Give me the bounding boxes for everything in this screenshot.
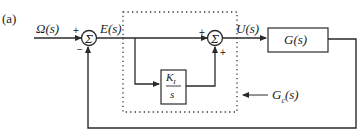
sum1-minus-sign: − bbox=[77, 45, 83, 55]
sum1-plus-sign: + bbox=[73, 26, 79, 36]
error-signal-label: E(s) bbox=[100, 22, 122, 35]
controller-label-main: G bbox=[272, 87, 281, 102]
sum2-plus-sign-bottom: + bbox=[220, 48, 226, 58]
integrator-numerator: KI bbox=[166, 72, 176, 86]
sum2-plus-sign-left: + bbox=[199, 28, 205, 38]
controller-label: Gc(s) bbox=[272, 88, 299, 105]
integral-output-line bbox=[186, 47, 215, 86]
plant-block-label: G(s) bbox=[284, 33, 307, 46]
input-signal-label: Ω(s) bbox=[36, 22, 59, 35]
integrator-gain-subscript: I bbox=[173, 78, 175, 86]
controller-label-tail: (s) bbox=[285, 87, 299, 102]
integrator-denominator: s bbox=[170, 89, 174, 100]
sigma-symbol-1: Σ bbox=[84, 33, 93, 46]
control-signal-label: U(s) bbox=[236, 22, 259, 35]
integral-branch-line bbox=[135, 38, 159, 84]
figure-label: (a) bbox=[2, 12, 16, 25]
sigma-symbol-2: Σ bbox=[210, 33, 219, 46]
